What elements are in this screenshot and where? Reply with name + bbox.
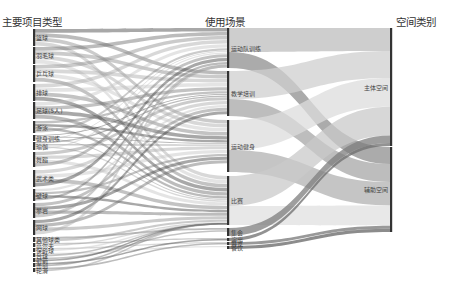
project-type-node-bar xyxy=(33,258,35,262)
usage-scene-node-label: 集会 xyxy=(231,229,243,236)
project-type-node-bar xyxy=(33,248,35,252)
project-type-node-label: 舞蹈 xyxy=(36,156,48,163)
usage-scene-node-label: 教学培训 xyxy=(231,90,255,97)
project-type-node-bar xyxy=(33,152,35,167)
project-type-node-label: 壁球 xyxy=(36,192,48,199)
usage-scene-node-bar xyxy=(227,228,229,236)
project-type-node-label: 乒乓球 xyxy=(36,70,54,77)
project-type-node-bar xyxy=(33,243,35,247)
project-type-node-label: 武术类 xyxy=(36,175,54,182)
flows-type-to-scene xyxy=(35,28,227,271)
project-type-node-label: 网球 xyxy=(36,224,48,231)
project-type-node-bar xyxy=(33,220,35,235)
project-type-node-label: 游泳 xyxy=(36,124,48,131)
project-type-node-bar xyxy=(33,65,35,82)
project-type-node-bar xyxy=(33,263,35,267)
flow-link xyxy=(229,205,390,225)
project-type-node-label: 篮球 xyxy=(36,34,48,41)
project-type-node-bar xyxy=(33,84,35,101)
usage-scene-node-label: 运动健身 xyxy=(231,143,255,150)
project-type-node-bar xyxy=(33,29,35,46)
usage-scene-node-bar xyxy=(227,246,229,249)
project-type-node-label: 羽毛球 xyxy=(36,52,54,59)
project-type-node-bar xyxy=(33,142,35,150)
space-category-node-label: 辅助空间 xyxy=(364,186,388,193)
usage-scene-node-bar xyxy=(227,242,229,245)
usage-scene-node-bar xyxy=(227,176,229,225)
column-title-project-type: 主要项目类型 xyxy=(2,14,62,29)
project-type-node-bar xyxy=(33,268,35,272)
column-title-usage-scene: 使用场景 xyxy=(205,14,245,29)
project-type-node-bar xyxy=(33,47,35,64)
usage-scene-node-bar xyxy=(227,120,229,172)
space-category-node-bar xyxy=(390,147,392,232)
usage-scene-node-label: 运动队训练 xyxy=(231,45,261,52)
project-type-node-bar xyxy=(33,203,35,218)
space-category-node-label: 主体空间 xyxy=(364,84,388,91)
project-type-node-label: 足球(5人) xyxy=(36,107,63,114)
project-type-node-bar xyxy=(33,102,35,119)
usage-scene-node-label: 比赛 xyxy=(231,197,243,204)
usage-scene-node-bar xyxy=(227,238,229,241)
project-type-node-bar xyxy=(33,253,35,257)
project-type-node-label: 健身训练 xyxy=(36,135,60,142)
project-type-node-bar xyxy=(33,135,35,141)
project-type-node-bar xyxy=(33,189,35,201)
project-type-node-bar xyxy=(33,170,35,187)
project-type-node-label: 轮滑 xyxy=(36,267,48,274)
usage-scene-node-bar xyxy=(227,28,229,68)
project-type-node-label: 排球 xyxy=(36,89,48,96)
project-type-node-bar xyxy=(33,121,35,133)
usage-scene-node-label: 餐饮 xyxy=(231,244,243,251)
sankey-diagram xyxy=(0,0,450,291)
column-title-space-category: 空间类别 xyxy=(396,14,436,29)
usage-scene-node-bar xyxy=(227,71,229,116)
project-type-node-bar xyxy=(33,237,35,242)
flows-scene-to-space xyxy=(229,28,390,249)
project-type-node-label: 攀岩 xyxy=(36,207,48,214)
flow-link xyxy=(35,28,227,33)
project-type-node-label: 瑜伽 xyxy=(36,143,48,150)
space-category-node-bar xyxy=(390,28,392,146)
